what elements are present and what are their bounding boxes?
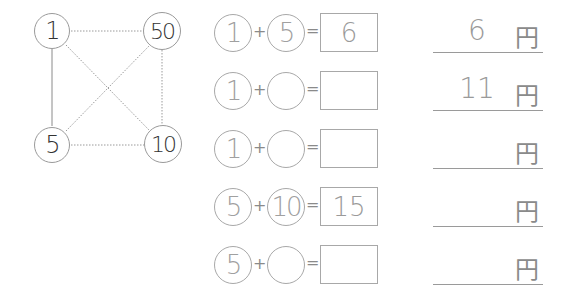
coin-node-50: 50 <box>143 12 181 50</box>
plus-sign: + <box>253 254 266 273</box>
equals-sign: = <box>306 195 319 214</box>
sum-box[interactable]: 15 <box>320 187 378 226</box>
yen-label: 円 <box>515 18 539 53</box>
answer-value: 11 <box>457 72 497 105</box>
addend-a-circle: 1 <box>214 14 252 52</box>
answer-line[interactable]: 円 <box>433 186 543 227</box>
equals-sign: = <box>306 137 319 156</box>
coin-node-10: 10 <box>144 125 182 163</box>
addend-a-circle: 5 <box>214 246 252 284</box>
plus-sign: + <box>253 80 266 99</box>
equals-sign: = <box>306 79 319 98</box>
equation-row-2: 1 + = 11 円 <box>210 70 568 114</box>
sum-box[interactable] <box>320 129 378 168</box>
sum-box[interactable] <box>320 245 378 284</box>
answer-line[interactable]: 円 <box>433 244 543 285</box>
addend-b-circle[interactable] <box>267 72 305 110</box>
plus-sign: + <box>253 138 266 157</box>
plus-sign: + <box>253 22 266 41</box>
equals-sign: = <box>306 253 319 272</box>
answer-line[interactable]: 円 <box>433 128 543 169</box>
addend-a-circle: 5 <box>214 188 252 226</box>
yen-label: 円 <box>515 192 539 227</box>
yen-label: 円 <box>515 250 539 285</box>
sum-box[interactable] <box>320 71 378 110</box>
addend-b-circle[interactable] <box>267 130 305 168</box>
coin-node-1: 1 <box>34 13 70 49</box>
equation-row-1: 1 + 5 = 6 6 円 <box>210 12 568 56</box>
edge-1-10 <box>66 45 149 130</box>
equation-row-4: 5 + 10 = 15 円 <box>210 186 568 230</box>
sum-box[interactable]: 6 <box>320 13 378 52</box>
answer-value: 6 <box>457 14 497 47</box>
equation-row-3: 1 + = 円 <box>210 128 568 172</box>
yen-label: 円 <box>515 134 539 169</box>
answer-line[interactable]: 11 円 <box>433 70 543 111</box>
addend-b-circle[interactable]: 10 <box>267 188 305 226</box>
equals-sign: = <box>306 21 319 40</box>
edge-5-50 <box>66 46 149 131</box>
plus-sign: + <box>253 196 266 215</box>
addend-b-circle[interactable]: 5 <box>267 14 305 52</box>
coin-node-5: 5 <box>34 127 70 163</box>
yen-label: 円 <box>515 76 539 111</box>
answer-line[interactable]: 6 円 <box>433 12 543 53</box>
addend-a-circle: 1 <box>214 130 252 168</box>
equation-row-5: 5 + = 円 <box>210 244 568 288</box>
coin-combination-diagram: 1 50 5 10 <box>0 0 210 200</box>
addend-b-circle[interactable] <box>267 246 305 284</box>
addend-a-circle: 1 <box>214 72 252 110</box>
